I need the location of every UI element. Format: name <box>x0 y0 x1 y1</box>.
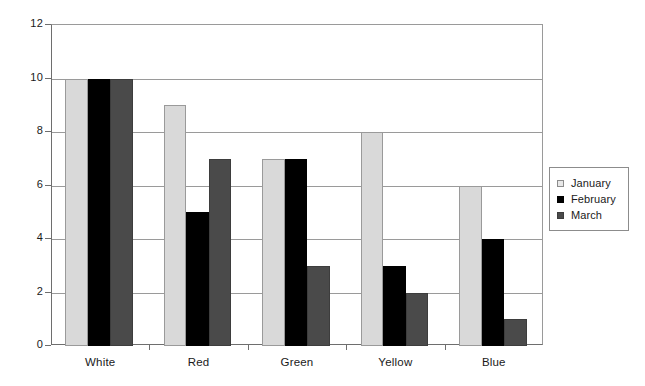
legend-swatch-january <box>557 180 564 187</box>
y-axis-tick-label: 10 <box>3 72 43 83</box>
y-axis-tick-label: 0 <box>3 339 43 350</box>
legend-item-february[interactable]: February <box>557 191 622 207</box>
bar-red-january <box>164 105 187 346</box>
bar-white-february <box>88 79 111 347</box>
bar-yellow-march <box>406 293 429 347</box>
y-axis-tick-label: 8 <box>3 125 43 136</box>
bar-blue-january <box>459 186 482 347</box>
bar-blue-march <box>504 319 527 346</box>
bar-red-february <box>186 212 209 346</box>
bar-chart: 024681012 WhiteRedGreenYellowBlue Januar… <box>0 0 645 386</box>
x-axis-label-yellow: Yellow <box>346 356 444 369</box>
bar-yellow-february <box>383 266 406 346</box>
x-axis-tick <box>445 345 446 350</box>
legend-label: February <box>571 193 616 205</box>
legend-item-january[interactable]: January <box>557 175 622 191</box>
legend-swatch-february <box>557 196 564 203</box>
y-axis-tick-label: 2 <box>3 286 43 297</box>
legend-label: January <box>571 177 611 189</box>
bar-green-february <box>285 159 308 346</box>
y-axis-tick <box>45 345 51 346</box>
x-axis-label-green: Green <box>248 356 346 369</box>
x-axis-label-white: White <box>51 356 149 369</box>
y-axis-tick-label: 12 <box>3 18 43 29</box>
plot-area <box>51 24 543 345</box>
legend-label: March <box>571 209 602 221</box>
x-axis-label-red: Red <box>149 356 247 369</box>
x-axis-tick <box>346 345 347 350</box>
bar-white-march <box>110 79 133 347</box>
bar-white-january <box>65 79 88 347</box>
bar-green-january <box>262 159 285 346</box>
y-axis-tick-label: 6 <box>3 179 43 190</box>
x-axis-tick <box>248 345 249 350</box>
legend: JanuaryFebruaryMarch <box>549 167 629 231</box>
x-axis-label-blue: Blue <box>445 356 543 369</box>
y-axis-tick-label: 4 <box>3 232 43 243</box>
bar-blue-february <box>482 239 505 346</box>
x-axis-tick <box>149 345 150 350</box>
bar-red-march <box>209 159 232 346</box>
legend-item-march[interactable]: March <box>557 207 622 223</box>
bar-green-march <box>307 266 330 346</box>
bar-yellow-january <box>361 132 384 346</box>
legend-swatch-march <box>557 212 564 219</box>
